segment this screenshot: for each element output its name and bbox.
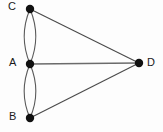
node-a[interactable]	[26, 60, 34, 68]
edge-a-d	[30, 63, 139, 64]
edge-a-b-right	[30, 64, 36, 118]
node-c[interactable]	[26, 5, 34, 13]
edge-b-d	[30, 63, 139, 118]
edge-c-d	[30, 9, 139, 63]
graph-svg	[0, 0, 163, 132]
node-label-b: B	[9, 111, 16, 122]
node-label-a: A	[9, 57, 16, 68]
edge-a-b-left	[24, 64, 30, 118]
edge-c-a-right	[30, 9, 36, 64]
node-b[interactable]	[26, 114, 34, 122]
graph-diagram-canvas: C A B D	[0, 0, 163, 132]
node-label-c: C	[8, 1, 16, 12]
node-d[interactable]	[135, 59, 143, 67]
node-label-d: D	[147, 57, 155, 68]
edge-c-a-left	[24, 9, 30, 64]
